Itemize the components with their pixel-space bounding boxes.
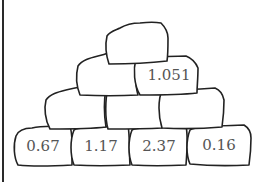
- stone-r4-c4-value: 0.16: [188, 136, 250, 154]
- stone-r4-c2-value: 1.17: [72, 137, 130, 155]
- stone-r4-c1-value: 0.67: [14, 137, 72, 155]
- stone-r2-c2-value: 1.051: [140, 66, 198, 84]
- stone-r4-c3-value: 2.37: [130, 137, 188, 155]
- stone-r1-c1: [106, 22, 168, 64]
- pyramid-diagram: 1.051 0.67 1.17 2.37 0.16: [0, 0, 258, 182]
